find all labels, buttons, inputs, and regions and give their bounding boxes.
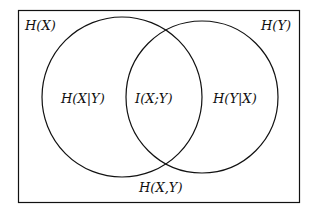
joint-entropy-label: H(X,Y) <box>138 180 182 195</box>
set-x-label: H(X) <box>24 18 56 33</box>
conditional-entropy-x-given-y-label: H(X|Y) <box>60 91 105 106</box>
venn-diagram: H(X) H(Y) H(X|Y) I(X;Y) H(Y|X) H(X,Y) <box>0 0 315 213</box>
set-y-label: H(Y) <box>260 18 291 33</box>
conditional-entropy-y-given-x-label: H(Y|X) <box>212 91 257 106</box>
universe-rectangle <box>19 11 300 203</box>
mutual-information-label: I(X;Y) <box>134 91 173 106</box>
